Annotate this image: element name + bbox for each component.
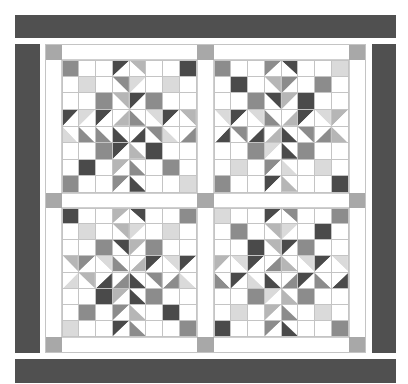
half-square-triangle-patch xyxy=(113,240,130,256)
half-square-triangle-patch xyxy=(130,305,147,321)
solid-patch xyxy=(214,176,231,193)
quilt-block-bottom-left xyxy=(62,208,197,337)
solid-patch xyxy=(231,60,248,77)
half-square-triangle-patch xyxy=(79,273,96,289)
solid-patch xyxy=(248,176,265,193)
half-square-triangle-patch xyxy=(282,289,299,305)
solid-patch xyxy=(79,224,96,240)
solid-patch xyxy=(298,321,315,337)
half-square-triangle-patch xyxy=(282,77,299,94)
solid-patch xyxy=(180,77,197,94)
solid-patch xyxy=(180,321,197,337)
solid-patch xyxy=(332,176,349,193)
top-border-band xyxy=(15,15,396,38)
half-square-triangle-patch xyxy=(113,160,130,177)
solid-patch xyxy=(248,77,265,94)
solid-patch xyxy=(248,208,265,224)
solid-patch xyxy=(248,289,265,305)
solid-patch xyxy=(62,321,79,337)
half-square-triangle-patch xyxy=(248,127,265,144)
half-square-triangle-patch xyxy=(265,305,282,321)
solid-patch xyxy=(214,60,231,77)
half-square-triangle-patch xyxy=(282,208,299,224)
half-square-triangle-patch xyxy=(332,256,349,272)
half-square-triangle-patch xyxy=(265,224,282,240)
solid-patch xyxy=(62,160,79,177)
solid-patch xyxy=(214,321,231,337)
solid-patch xyxy=(332,321,349,337)
half-square-triangle-patch xyxy=(315,110,332,127)
solid-patch xyxy=(231,160,248,177)
solid-patch xyxy=(79,289,96,305)
half-square-triangle-patch xyxy=(130,60,147,77)
solid-patch xyxy=(214,289,231,305)
half-square-triangle-patch xyxy=(332,273,349,289)
solid-patch xyxy=(315,305,332,321)
solid-patch xyxy=(146,60,163,77)
solid-patch xyxy=(231,77,248,94)
half-square-triangle-patch xyxy=(248,256,265,272)
solid-patch xyxy=(332,289,349,305)
solid-patch xyxy=(96,224,113,240)
half-square-triangle-patch xyxy=(130,160,147,177)
half-square-triangle-patch xyxy=(265,321,282,337)
half-square-triangle-patch xyxy=(62,256,79,272)
half-square-triangle-patch xyxy=(282,240,299,256)
solid-patch xyxy=(180,240,197,256)
solid-patch xyxy=(231,224,248,240)
solid-patch xyxy=(248,143,265,160)
half-square-triangle-patch xyxy=(130,93,147,110)
half-square-triangle-patch xyxy=(214,256,231,272)
solid-patch xyxy=(79,143,96,160)
half-square-triangle-patch xyxy=(282,93,299,110)
solid-patch xyxy=(231,93,248,110)
solid-patch xyxy=(62,93,79,110)
solid-patch xyxy=(79,240,96,256)
half-square-triangle-patch xyxy=(265,256,282,272)
half-square-triangle-patch xyxy=(113,289,130,305)
half-square-triangle-patch xyxy=(265,240,282,256)
solid-patch xyxy=(315,224,332,240)
half-square-triangle-patch xyxy=(62,273,79,289)
solid-patch xyxy=(79,77,96,94)
solid-patch xyxy=(332,93,349,110)
solid-patch xyxy=(146,240,163,256)
half-square-triangle-patch xyxy=(298,273,315,289)
half-square-triangle-patch xyxy=(265,110,282,127)
half-square-triangle-patch xyxy=(214,273,231,289)
solid-patch xyxy=(96,208,113,224)
solid-patch xyxy=(163,289,180,305)
bottom-border-band xyxy=(15,359,396,383)
half-square-triangle-patch xyxy=(96,110,113,127)
solid-patch xyxy=(248,321,265,337)
half-square-triangle-patch xyxy=(130,143,147,160)
solid-patch xyxy=(96,160,113,177)
solid-patch xyxy=(214,305,231,321)
half-square-triangle-patch xyxy=(113,321,130,337)
solid-patch xyxy=(298,289,315,305)
half-square-triangle-patch xyxy=(130,321,147,337)
half-square-triangle-patch xyxy=(282,224,299,240)
solid-patch xyxy=(146,93,163,110)
solid-patch xyxy=(163,77,180,94)
solid-patch xyxy=(315,77,332,94)
half-square-triangle-patch xyxy=(113,60,130,77)
solid-patch xyxy=(180,305,197,321)
solid-patch xyxy=(62,289,79,305)
half-square-triangle-patch xyxy=(130,256,147,272)
solid-patch xyxy=(79,321,96,337)
solid-patch xyxy=(214,240,231,256)
cornerstone xyxy=(349,44,366,60)
half-square-triangle-patch xyxy=(130,110,147,127)
half-square-triangle-patch xyxy=(113,77,130,94)
solid-patch xyxy=(180,160,197,177)
half-square-triangle-patch xyxy=(79,256,96,272)
solid-patch xyxy=(96,60,113,77)
solid-patch xyxy=(146,160,163,177)
half-square-triangle-patch xyxy=(231,110,248,127)
solid-patch xyxy=(332,77,349,94)
solid-patch xyxy=(214,160,231,177)
half-square-triangle-patch xyxy=(146,256,163,272)
half-square-triangle-patch xyxy=(96,273,113,289)
half-square-triangle-patch xyxy=(282,60,299,77)
